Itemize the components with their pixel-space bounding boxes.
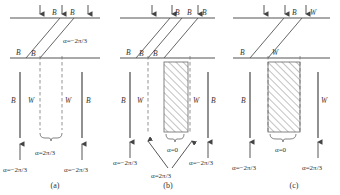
panel-a-mid-label-1: B [31,49,36,58]
panel-c-bottom-right-angle: α=2π/3 [302,164,323,172]
panel-b-converge-label: α=2π/3 [151,172,172,180]
panel-b-col-label-2: W [193,96,200,105]
panel-a-brace-label: α=2π/3 [35,149,56,157]
panel-c-col-label-0: B [241,96,246,105]
panel-b-col-label-3: B [211,96,216,105]
panel-c: B W B W B W α=0 α=−2π/3 α=2π/3 [232,5,330,172]
panel-b-hatched-region [164,62,188,132]
panel-a-bottom-right-angle: α=−2π/3 [64,166,89,174]
panel-b-top-label-1: B [187,8,192,17]
panel-c-hatched-region [268,62,300,132]
panel-a-mid-label-0: B [16,48,21,57]
panel-b-brace [166,134,184,142]
panel-a-top-label-1: B [70,8,75,17]
panel-b-bottom-left-angle: α=−2π/3 [113,159,138,167]
panel-b-bottom-right-angle: α=−2π/3 [189,159,214,167]
panel-c-mid-label-0: B [240,48,245,57]
panel-b-col-label-1: W [137,96,144,105]
panel-b-top-label-2: B [202,8,207,17]
panel-b-slant-3 [164,18,198,58]
panel-c-brace [270,134,296,142]
panel-a-bottom-left-angle: α=−2π/3 [3,166,28,174]
panel-b-mid-label-2: B [153,49,158,58]
panel-a-col-label-3: B [86,96,91,105]
panel-b: B B B B B B B W W B α=0 α=−2π/3 α=−2π/3 … [113,5,216,180]
panel-a-col-label-0: B [11,96,16,105]
panel-caption-a: (a) [35,181,75,190]
panel-c-col-label-1: W [321,96,328,105]
panel-b-hatch-label: α=0 [167,146,179,154]
panel-b-mid-label-1: B [139,49,144,58]
panel-a-top-label-0: B [52,8,57,17]
figure-container: B B B B α=−2π/3 B W W B α=2π/3 α=−2π/3 α… [0,0,340,195]
panel-c-mid-label-1: W [272,48,279,57]
panel-caption-b: (b) [148,181,188,190]
panel-b-col-label-0: B [121,96,126,105]
panel-caption-c: (c) [274,181,314,190]
panel-a-col-label-1: W [28,96,35,105]
panel-c-top-label-0: B [292,8,297,17]
diagram-svg: B B B B α=−2π/3 B W W B α=2π/3 α=−2π/3 α… [0,0,340,195]
panel-a-col-label-2: W [65,96,72,105]
panel-b-mid-label-0: B [126,48,131,57]
panel-b-top-label-0: B [175,8,180,17]
panel-a-brace [40,133,62,141]
panel-c-top-label-1: W [310,8,317,17]
panel-c-hatch-label: α=0 [275,146,287,154]
panel-c-slant-1 [250,18,284,58]
panel-c-bottom-left-angle: α=−2π/3 [232,164,257,172]
panel-a: B B B B α=−2π/3 B W W B α=2π/3 α=−2π/3 α… [3,5,100,174]
panel-a-right-angle: α=−2π/3 [63,37,88,45]
panel-b-converge-arrow-left [148,141,168,168]
